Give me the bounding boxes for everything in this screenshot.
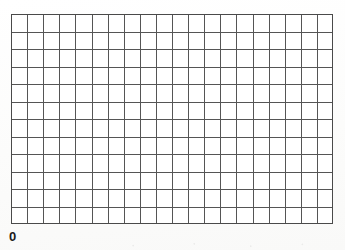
- axis-origin-label: 0: [9, 230, 16, 243]
- scan-noise: [105, 242, 340, 248]
- grid: [11, 14, 333, 224]
- plot-area: [11, 14, 333, 224]
- chart-figure: 0: [0, 0, 345, 250]
